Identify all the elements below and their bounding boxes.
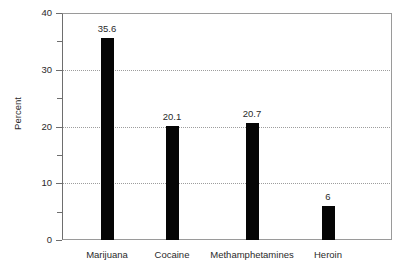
bar-marijuana (101, 38, 114, 240)
bar-value-label-methamphetamines: 20.7 (222, 109, 282, 119)
bar-value-label-cocaine: 20.1 (142, 112, 202, 122)
x-axis-label-heroin: Heroin (268, 250, 388, 260)
y-tick-major-0 (56, 240, 62, 241)
bar-cocaine (166, 126, 179, 240)
bar-chart-figure: Percent 010203040 35.620.120.76 Marijuan… (0, 0, 404, 271)
bars-layer (0, 0, 404, 240)
bar-value-label-heroin: 6 (298, 192, 358, 202)
bar-methamphetamines (246, 123, 259, 240)
bar-heroin (322, 206, 335, 240)
bar-value-label-marijuana: 35.6 (77, 24, 137, 34)
